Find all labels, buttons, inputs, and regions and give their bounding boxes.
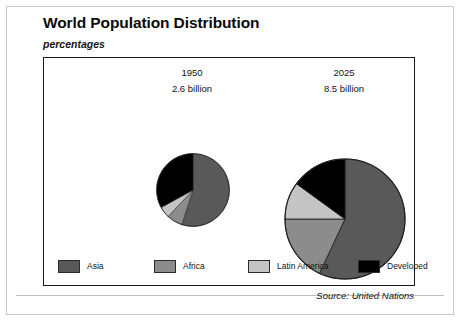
legend-label-latin-america: Latin America	[277, 261, 329, 271]
source-note: Source: United Nations	[316, 290, 414, 301]
column-header-year-1950: 1950	[147, 67, 237, 78]
pie-chart-1950	[156, 153, 230, 227]
legend-label-africa: Africa	[183, 261, 205, 271]
legend-swatch-asia	[58, 260, 80, 273]
legend-item-asia: Asia	[58, 258, 104, 274]
legend-item-latin-america: Latin America	[248, 258, 329, 274]
legend-swatch-africa	[154, 260, 176, 273]
legend-label-developed: Developed	[387, 261, 428, 271]
column-header-population-1950: 2.6 billion	[147, 83, 237, 94]
legend-label-asia: Asia	[87, 261, 104, 271]
column-header-year-2025: 2025	[299, 67, 389, 78]
figure-root: World Population Distribution percentage…	[0, 0, 460, 321]
figure-subtitle: percentages	[43, 38, 105, 50]
chart-plot-area: 1950 2.6 billion 2025 8.5 billion Asia A…	[43, 57, 415, 286]
legend-item-developed: Developed	[358, 258, 428, 274]
pie-svg-1950	[156, 153, 230, 227]
column-header-population-2025: 8.5 billion	[299, 83, 389, 94]
legend-swatch-developed	[358, 260, 380, 273]
chart-legend: Asia Africa Latin America Developed	[58, 258, 402, 280]
legend-swatch-latin-america	[248, 260, 270, 273]
legend-item-africa: Africa	[154, 258, 205, 274]
page-title: World Population Distribution	[43, 14, 259, 32]
